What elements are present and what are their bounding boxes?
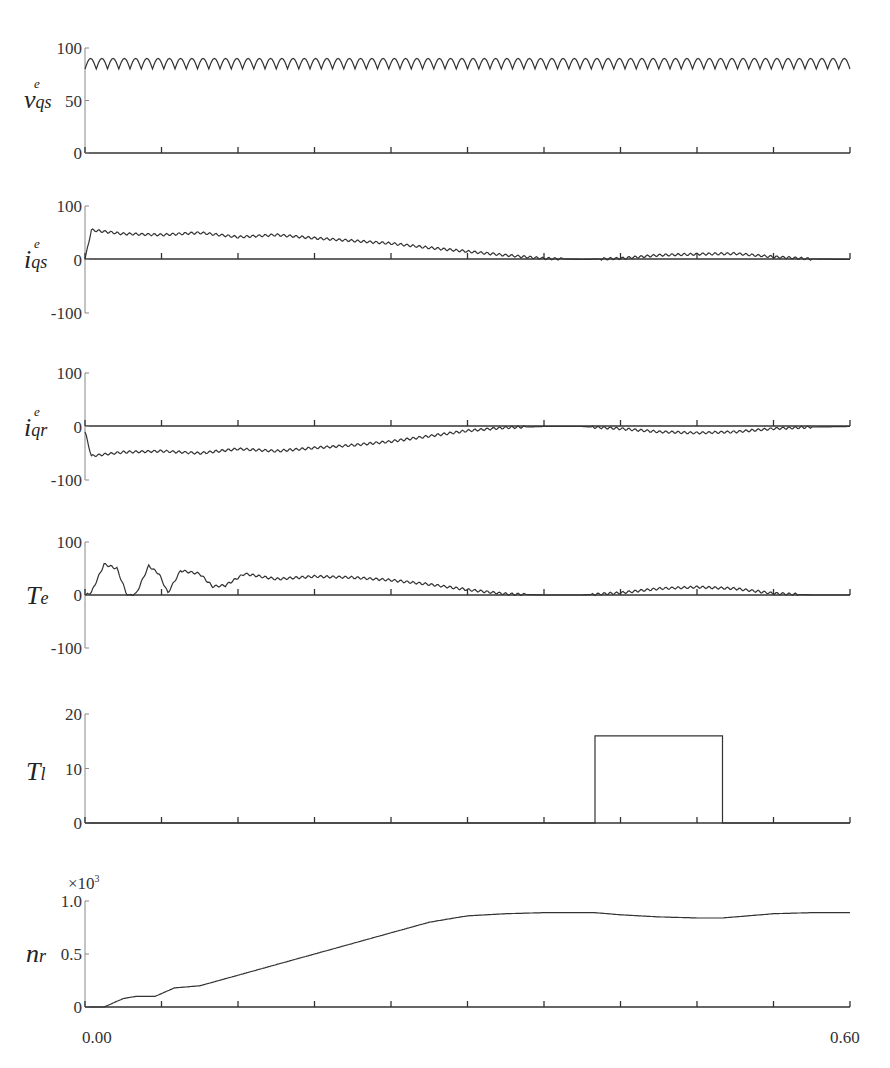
y-tick-label: 100 — [57, 533, 83, 552]
series-line-iqr — [85, 426, 850, 456]
y-tick-label: 10 — [65, 760, 82, 779]
y-tick-label: 100 — [57, 364, 83, 383]
superscript-e: e — [34, 404, 40, 419]
y-tick-label: 0 — [74, 998, 83, 1017]
panel-Te: -1000100Te — [26, 533, 850, 658]
multi-panel-line-chart: 050100vqse-1000100iqse-1000100iqre-10001… — [0, 0, 890, 1068]
panel-nr: 00.51.0nr×103 — [26, 873, 850, 1017]
panel-iqr: -1000100iqre — [24, 364, 850, 490]
x-label-end: 0.60 — [830, 1028, 860, 1047]
superscript-e: e — [34, 76, 40, 91]
y-tick-label: 0 — [74, 418, 83, 437]
y-tick-label: 1.0 — [61, 892, 82, 911]
y-multiplier-label: ×103 — [68, 873, 100, 893]
series-line-nr — [85, 913, 850, 1007]
y-tick-label: 0 — [74, 814, 83, 833]
y-variable-label: Te — [26, 581, 48, 610]
y-tick-label: 0 — [74, 251, 83, 270]
superscript-e: e — [34, 236, 40, 251]
series-line-Tl — [85, 736, 850, 823]
y-tick-label: 100 — [57, 197, 83, 216]
y-tick-label: 100 — [57, 39, 83, 58]
y-tick-label: -100 — [51, 639, 82, 658]
y-tick-label: 20 — [65, 705, 82, 724]
y-tick-label: 50 — [65, 92, 82, 111]
y-tick-label: 0.5 — [61, 945, 82, 964]
y-variable-label: nr — [26, 939, 47, 968]
series-line-vqs — [85, 59, 850, 70]
y-variable-label: Tl — [26, 757, 45, 786]
panel-vqs: 050100vqse — [24, 39, 850, 163]
y-tick-label: 0 — [74, 586, 83, 605]
x-label-start: 0.00 — [82, 1028, 112, 1047]
panel-Tl: 01020Tl — [26, 705, 850, 833]
y-tick-label: -100 — [51, 304, 82, 323]
y-tick-label: 0 — [74, 144, 83, 163]
y-tick-label: -100 — [51, 471, 82, 490]
panel-iqs: -1000100iqse — [24, 197, 850, 323]
